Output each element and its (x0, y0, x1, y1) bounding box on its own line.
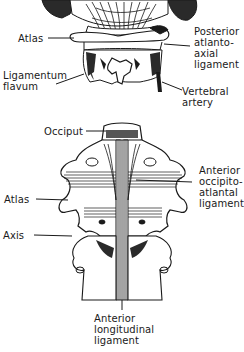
label-atlas-bottom: Atlas (4, 194, 29, 205)
anatomy-figure: Atlas Posterior atlanto- axial ligament … (0, 0, 244, 352)
label-ligamentum-flavum: Ligamentum flavum (3, 70, 67, 92)
label-axis: Axis (3, 230, 24, 241)
label-atlas-top: Atlas (18, 33, 43, 44)
label-anterior-longitudinal-ligament: Anterior longitudinal ligament (94, 313, 154, 346)
label-vertebral-artery: Vertebral artery (182, 86, 229, 108)
label-anterior-occipito-atlantal-ligament: Anterior occipito- atlantal ligament (199, 165, 244, 209)
bottom-view-drawing (34, 123, 192, 310)
label-posterior-atlanto-axial-ligament: Posterior atlanto- axial ligament (194, 26, 239, 70)
label-occiput: Occiput (44, 126, 83, 137)
